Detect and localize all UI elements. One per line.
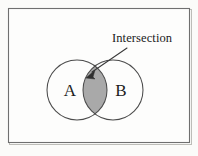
set-label-a: A <box>64 81 77 100</box>
venn-diagram-figure: A B Intersection <box>0 0 198 156</box>
set-circle-b <box>83 60 143 120</box>
venn-diagram-canvas: A B Intersection <box>0 0 198 156</box>
set-label-b: B <box>115 81 126 100</box>
intersection-callout-label: Intersection <box>112 31 173 45</box>
